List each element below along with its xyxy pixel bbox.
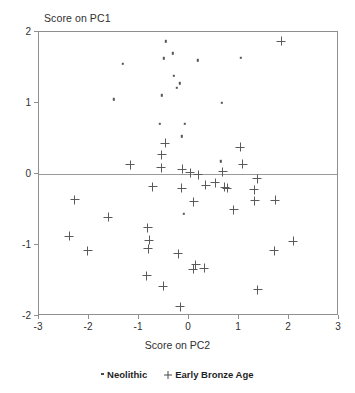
y-axis-tick (34, 244, 38, 245)
y-axis-tick (34, 31, 38, 32)
data-point-early-bronze-age (271, 196, 280, 205)
data-point-neolithic (178, 82, 180, 84)
x-axis-tick (88, 315, 89, 319)
data-point-early-bronze-age (250, 185, 259, 194)
data-point-early-bronze-age (143, 223, 152, 232)
data-point-early-bronze-age (142, 271, 151, 280)
data-point-neolithic (172, 52, 174, 54)
legend-item-neolithic: Neolithic (101, 369, 147, 380)
data-point-neolithic (159, 122, 161, 124)
x-axis-tick (188, 315, 189, 319)
data-point-neolithic (164, 40, 166, 42)
data-point-neolithic (175, 87, 177, 89)
data-point-early-bronze-age (176, 302, 185, 311)
dot-marker-icon (101, 373, 104, 376)
data-point-early-bronze-age (83, 246, 92, 255)
x-axis-tick-label: -3 (34, 321, 43, 332)
data-point-early-bronze-age (211, 178, 220, 187)
data-point-early-bronze-age (157, 150, 166, 159)
data-point-neolithic (183, 122, 185, 124)
x-axis-tick-label: 2 (285, 321, 291, 332)
legend-label-early-bronze-age: Early Bronze Age (175, 369, 253, 380)
data-point-early-bronze-age (157, 163, 166, 172)
y-axis-tick-label: 1 (16, 97, 31, 108)
x-axis-tick (338, 315, 339, 319)
x-axis-tick-label: 3 (335, 321, 341, 332)
data-point-early-bronze-age (200, 264, 209, 273)
y-axis-tick-label: 2 (16, 26, 31, 37)
data-point-neolithic (180, 135, 182, 137)
data-point-early-bronze-age (277, 37, 286, 46)
data-point-early-bronze-age (229, 205, 238, 214)
data-point-neolithic (183, 213, 185, 215)
data-point-neolithic (221, 102, 223, 104)
scatter-plot-figure: Score on PC1 -3-2-10123-2-1012 Score on … (0, 0, 355, 393)
x-axis-tick-label: -2 (84, 321, 93, 332)
data-point-early-bronze-age (223, 184, 232, 193)
data-point-early-bronze-age (238, 160, 247, 169)
y-axis-tick (34, 315, 38, 316)
y-axis-tick-label: 0 (16, 168, 31, 179)
data-point-early-bronze-age (289, 237, 298, 246)
x-axis-tick (238, 315, 239, 319)
x-axis-tick (38, 315, 39, 319)
y-axis-tick-label: -1 (16, 239, 31, 250)
data-point-early-bronze-age (144, 244, 153, 253)
legend-item-early-bronze-age: Early Bronze Age (164, 369, 253, 380)
data-point-early-bronze-age (161, 139, 170, 148)
data-point-early-bronze-age (270, 246, 279, 255)
data-point-neolithic (122, 63, 124, 65)
x-axis-tick-label: -1 (134, 321, 143, 332)
data-point-neolithic (163, 57, 165, 59)
data-point-early-bronze-age (159, 282, 168, 291)
x-axis-tick (138, 315, 139, 319)
data-point-early-bronze-age (70, 195, 79, 204)
x-axis-tick (288, 315, 289, 319)
plot-area (38, 31, 338, 315)
data-point-early-bronze-age (148, 182, 157, 191)
data-point-early-bronze-age (174, 249, 183, 258)
data-point-early-bronze-age (201, 181, 210, 190)
data-point-neolithic (240, 56, 242, 58)
x-axis-title: Score on PC2 (0, 339, 355, 351)
y-axis-tick-label: -2 (16, 310, 31, 321)
data-point-early-bronze-age (236, 143, 245, 152)
data-point-early-bronze-age (253, 174, 262, 183)
chart-legend: Neolithic Early Bronze Age (0, 369, 355, 380)
data-point-early-bronze-age (194, 170, 203, 179)
data-point-early-bronze-age (189, 197, 198, 206)
data-point-early-bronze-age (126, 160, 135, 169)
legend-label-neolithic: Neolithic (107, 369, 147, 380)
data-point-early-bronze-age (253, 285, 262, 294)
y-axis-tick (34, 173, 38, 174)
x-axis-tick-label: 0 (185, 321, 191, 332)
data-point-neolithic (160, 94, 162, 96)
x-axis-tick-label: 1 (235, 321, 241, 332)
data-point-early-bronze-age (65, 232, 74, 241)
data-point-neolithic (113, 98, 115, 100)
data-point-early-bronze-age (218, 167, 227, 176)
data-point-neolithic (197, 59, 199, 61)
data-point-early-bronze-age (177, 184, 186, 193)
y-axis-title: Score on PC1 (44, 12, 111, 24)
y-axis-tick (34, 102, 38, 103)
data-point-early-bronze-age (250, 196, 259, 205)
data-point-early-bronze-age (104, 213, 113, 222)
data-point-neolithic (173, 75, 175, 77)
data-point-neolithic (220, 160, 222, 162)
plus-marker-icon (164, 371, 172, 379)
